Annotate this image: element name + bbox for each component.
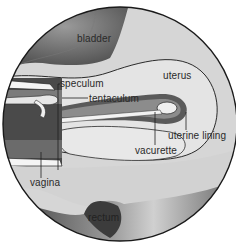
label-speculum: speculum <box>60 78 104 89</box>
label-bladder: bladder <box>77 33 111 44</box>
label-vacurette: vacurette <box>135 145 177 156</box>
label-uterus: uterus <box>163 70 191 81</box>
label-uterine-lining: uterine lining <box>168 130 226 141</box>
diagram: bladder speculum tentaculum uterus uteri… <box>0 0 236 249</box>
label-rectum: rectum <box>88 212 119 223</box>
label-tentaculum: tentaculum <box>89 93 139 104</box>
label-vagina: vagina <box>30 177 60 188</box>
